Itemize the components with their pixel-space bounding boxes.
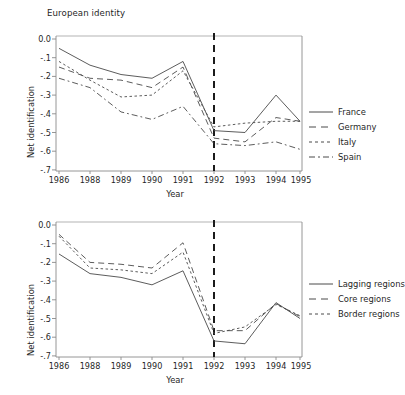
x-tick-bottom-0: 1986 — [44, 361, 74, 371]
x-tick-top-4: 1991 — [168, 175, 198, 185]
x-tick-bottom-4: 1991 — [168, 361, 198, 371]
chart-panel-european-identity: European identity Net identification 0.0… — [0, 0, 382, 198]
legend-label-france: France — [338, 107, 366, 117]
x-axis-label-bottom: Year — [155, 375, 195, 385]
legend-item-border-regions: Border regions — [309, 306, 405, 321]
x-tick-bottom-5: 1992 — [199, 361, 229, 371]
series-line-lagging-regions — [59, 254, 300, 344]
series-line-italy — [59, 61, 300, 126]
legend-label-italy: Italy — [338, 137, 356, 147]
x-tick-top-0: 1986 — [44, 175, 74, 185]
series-line-core-regions — [59, 234, 300, 330]
legend-label-spain: Spain — [338, 152, 361, 162]
legend-item-lagging-regions: Lagging regions — [309, 276, 405, 291]
legend-bottom: Lagging regions Core regions Border regi… — [309, 276, 405, 321]
x-tick-bottom-6: 1993 — [230, 361, 260, 371]
x-tick-top-6: 1993 — [230, 175, 260, 185]
legend-top: France Germany Italy Spain — [309, 104, 377, 164]
plot-area-top — [0, 0, 382, 198]
legend-key-solid-icon — [309, 107, 333, 117]
legend-item-germany: Germany — [309, 119, 377, 134]
x-tick-bottom-1: 1988 — [75, 361, 105, 371]
legend-label-germany: Germany — [338, 122, 377, 132]
legend-label-lagging-regions: Lagging regions — [338, 279, 405, 289]
legend-key-dashed-icon — [309, 294, 333, 304]
x-tick-top-1: 1988 — [75, 175, 105, 185]
series-line-france — [59, 48, 300, 132]
x-tick-bottom-8: 1995 — [286, 361, 316, 371]
x-tick-top-8: 1995 — [286, 175, 316, 185]
legend-item-core-regions: Core regions — [309, 291, 405, 306]
x-tick-top-5: 1992 — [199, 175, 229, 185]
x-tick-top-2: 1989 — [106, 175, 136, 185]
x-tick-top-3: 1990 — [137, 175, 167, 185]
x-tick-bottom-3: 1990 — [137, 361, 167, 371]
series-line-germany — [59, 67, 300, 142]
legend-item-spain: Spain — [309, 149, 377, 164]
legend-key-dashed-icon — [309, 122, 333, 132]
chart-panel-regions: Net identification 0.0 -.1 -.2 -.3 -.4 -… — [0, 198, 382, 395]
legend-item-france: France — [309, 104, 377, 119]
series-line-spain — [59, 78, 300, 149]
legend-key-dotted-icon — [309, 137, 333, 147]
legend-label-border-regions: Border regions — [338, 309, 400, 319]
legend-key-dashdot-icon — [309, 152, 333, 162]
legend-key-dotted-icon — [309, 309, 333, 319]
legend-item-italy: Italy — [309, 134, 377, 149]
legend-key-solid-icon — [309, 279, 333, 289]
x-tick-bottom-2: 1989 — [106, 361, 136, 371]
legend-label-core-regions: Core regions — [338, 294, 391, 304]
